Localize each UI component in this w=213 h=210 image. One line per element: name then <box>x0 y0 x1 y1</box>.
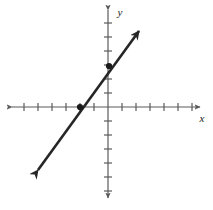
plotted-line <box>38 31 139 170</box>
graph-canvas: x y <box>0 0 213 210</box>
x-axis-label: x <box>199 112 205 124</box>
coordinate-plane-figure: x y <box>0 0 213 210</box>
line-segment <box>38 31 139 170</box>
y-axis: y <box>104 6 123 198</box>
y-axis-label: y <box>117 6 123 18</box>
point-x-intercept <box>77 104 83 110</box>
point-y-intercept <box>106 63 112 69</box>
